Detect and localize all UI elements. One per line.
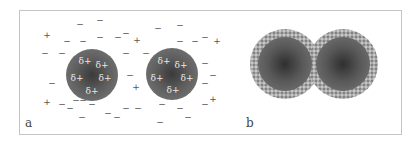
partial-positive-charge: δ+	[151, 74, 164, 83]
partial-positive-charge: δ+	[71, 74, 84, 83]
partial-positive-charge: δ+	[86, 87, 99, 96]
negative-ion: −	[122, 49, 130, 58]
negative-ion: −	[96, 33, 104, 42]
negative-ion: −	[122, 29, 130, 38]
positive-ion: +	[43, 98, 51, 107]
negative-ion: −	[209, 71, 217, 80]
negative-ion: −	[48, 79, 56, 88]
partial-positive-charge: δ+	[96, 61, 109, 70]
negative-ion: −	[58, 100, 66, 109]
negative-ion: −	[142, 49, 150, 58]
figure: a b −−+−−−−−+−−−−−−++−−−−−−−−−−−−−−−−−−−…	[0, 0, 420, 142]
negative-ion: −	[41, 49, 49, 58]
positive-ion: +	[133, 36, 141, 45]
negative-ion: −	[201, 79, 209, 88]
panel-a-label: a	[25, 116, 32, 130]
negative-ion: −	[76, 20, 84, 29]
negative-ion: −	[96, 16, 104, 25]
negative-ion: −	[201, 59, 209, 68]
negative-ion: −	[201, 100, 209, 109]
negative-ion: −	[114, 33, 122, 42]
particle-core	[258, 37, 312, 91]
negative-ion: −	[176, 37, 184, 46]
negative-ion: −	[184, 113, 192, 122]
negative-ion: −	[79, 37, 87, 46]
negative-ion: −	[158, 100, 166, 109]
negative-ion: −	[66, 104, 74, 113]
negative-ion: −	[78, 113, 86, 122]
negative-ion: −	[122, 104, 130, 113]
partial-positive-charge: δ+	[181, 74, 194, 83]
negative-ion: −	[58, 49, 66, 58]
negative-ion: −	[156, 118, 164, 127]
negative-ion: −	[176, 21, 184, 30]
negative-ion: −	[63, 37, 71, 46]
particle-core	[316, 37, 370, 91]
partial-positive-charge: δ+	[167, 86, 180, 95]
negative-ion: −	[104, 109, 112, 118]
positive-ion: +	[213, 37, 221, 46]
panel-b-label: b	[246, 116, 254, 130]
negative-ion: −	[191, 37, 199, 46]
partial-positive-charge: δ+	[175, 61, 188, 70]
positive-ion: +	[209, 95, 217, 104]
negative-ion: −	[113, 113, 121, 122]
positive-ion: +	[132, 83, 140, 92]
negative-ion: −	[176, 104, 184, 113]
negative-ion: −	[134, 104, 142, 113]
positive-ion: +	[43, 31, 51, 40]
negative-ion: −	[126, 71, 134, 80]
negative-ion: −	[201, 33, 209, 42]
partial-positive-charge: δ+	[99, 74, 112, 83]
partial-positive-charge: δ+	[79, 57, 92, 66]
partial-positive-charge: δ+	[158, 57, 171, 66]
negative-ion: −	[154, 24, 162, 33]
